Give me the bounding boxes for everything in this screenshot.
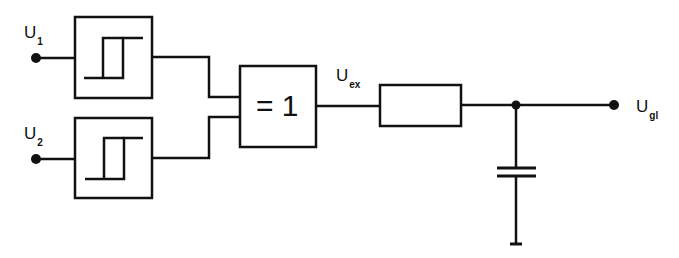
wire xyxy=(152,57,240,97)
resistor xyxy=(380,85,461,126)
schmitt-trigger-2 xyxy=(75,118,152,198)
hysteresis-icon xyxy=(104,138,124,179)
wire xyxy=(152,117,240,158)
label-uex: Uex xyxy=(336,67,360,87)
label-ugl: Ugl xyxy=(636,98,658,118)
label-u2: U2 xyxy=(24,125,43,145)
output-terminal-ugl xyxy=(609,100,619,110)
schmitt-trigger-1 xyxy=(75,17,152,98)
hysteresis-icon xyxy=(85,138,143,179)
hysteresis-icon xyxy=(84,38,143,78)
label-u1: U1 xyxy=(24,24,43,44)
hysteresis-icon xyxy=(103,38,123,78)
circuit-diagram xyxy=(0,0,679,258)
xor-gate-label: = 1 xyxy=(256,89,299,123)
